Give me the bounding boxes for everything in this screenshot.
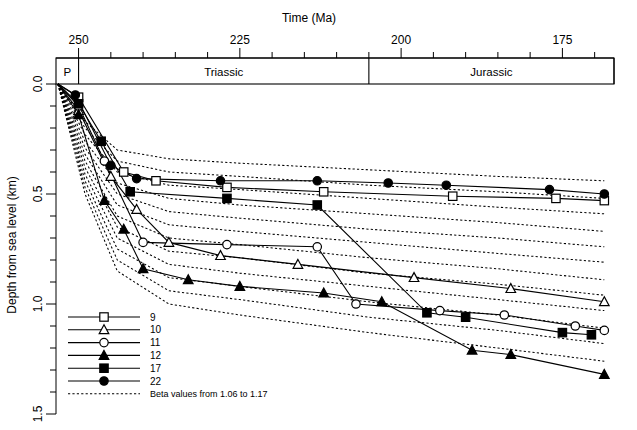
series-marker-11 bbox=[352, 300, 360, 308]
series-marker-11 bbox=[600, 326, 608, 334]
data-series-layer bbox=[58, 84, 604, 374]
x-tick-label: 200 bbox=[391, 33, 411, 47]
series-marker-17 bbox=[558, 328, 566, 336]
series-line-12 bbox=[58, 84, 604, 374]
series-marker-17 bbox=[97, 137, 105, 145]
legend-label-17: 17 bbox=[150, 363, 162, 374]
x-tick-label: 225 bbox=[230, 33, 250, 47]
series-marker-22 bbox=[132, 174, 140, 182]
beta-curves-layer bbox=[58, 84, 604, 361]
legend-label-9: 9 bbox=[150, 312, 156, 323]
series-marker-22 bbox=[216, 177, 224, 185]
series-marker-22 bbox=[545, 185, 553, 193]
legend-label-22: 22 bbox=[150, 376, 162, 387]
x-tick-label: 175 bbox=[552, 33, 572, 47]
beta-curve-1-06 bbox=[58, 84, 604, 181]
series-marker-9 bbox=[320, 188, 328, 196]
legend-marker-9 bbox=[100, 313, 108, 321]
series-marker-11 bbox=[223, 240, 231, 248]
series-marker-22 bbox=[384, 179, 392, 187]
series-marker-12 bbox=[467, 345, 477, 354]
series-marker-22 bbox=[442, 181, 450, 189]
y-axis-tick-labels: 0.00.51.01.5 bbox=[31, 75, 45, 422]
legend-label-10: 10 bbox=[150, 324, 162, 335]
series-marker-17 bbox=[461, 313, 469, 321]
y-axis-ticks bbox=[46, 84, 56, 414]
series-marker-11 bbox=[500, 311, 508, 319]
beta-curve-1-17 bbox=[58, 84, 604, 361]
series-marker-12 bbox=[100, 196, 110, 205]
period-bar-frame bbox=[56, 58, 614, 84]
y-tick-label: 0.0 bbox=[31, 75, 45, 92]
beta-curve-1-15 bbox=[58, 84, 604, 328]
y-tick-label: 1.5 bbox=[31, 405, 45, 422]
series-marker-17 bbox=[74, 100, 82, 108]
series-marker-17 bbox=[587, 331, 595, 339]
series-marker-17 bbox=[223, 194, 231, 202]
series-marker-9 bbox=[120, 168, 128, 176]
series-marker-22 bbox=[107, 161, 115, 169]
series-marker-12 bbox=[138, 264, 148, 273]
series-marker-10 bbox=[106, 171, 116, 180]
period-label-jurassic: Jurassic bbox=[470, 66, 512, 78]
series-marker-22 bbox=[313, 177, 321, 185]
period-label-triassic: Triassic bbox=[204, 66, 243, 78]
legend-label-beta: Beta values from 1.06 to 1.17 bbox=[150, 389, 268, 399]
x-axis-tick-labels: 250225200175 bbox=[69, 33, 573, 47]
series-marker-11 bbox=[313, 243, 321, 251]
series-marker-17 bbox=[423, 309, 431, 317]
series-marker-9 bbox=[449, 192, 457, 200]
legend-label-12: 12 bbox=[150, 350, 162, 361]
x-axis-title: Time (Ma) bbox=[282, 11, 336, 25]
chart-page: Time (Ma) Depth from sea level (km) 2502… bbox=[0, 0, 637, 430]
series-marker-17 bbox=[126, 188, 134, 196]
series-marker-11 bbox=[571, 322, 579, 330]
beta-curve-1-08 bbox=[58, 84, 604, 214]
legend-marker-11 bbox=[100, 338, 108, 346]
series-marker-9 bbox=[223, 183, 231, 191]
x-axis-ticks bbox=[79, 48, 595, 58]
legend-label-11: 11 bbox=[150, 337, 161, 348]
period-label-p: P bbox=[63, 66, 71, 78]
series-marker-11 bbox=[436, 306, 444, 314]
series-marker-22 bbox=[71, 91, 79, 99]
x-tick-label: 250 bbox=[69, 33, 89, 47]
geologic-period-bar: PTriassicJurassic bbox=[56, 58, 614, 84]
y-tick-label: 1.0 bbox=[31, 295, 45, 312]
y-axis-title: Depth from sea level (km) bbox=[5, 176, 19, 313]
series-marker-22 bbox=[600, 190, 608, 198]
subsidence-chart: Time (Ma) Depth from sea level (km) 2502… bbox=[0, 0, 637, 430]
chart-legend: 91011121722Beta values from 1.06 to 1.17 bbox=[68, 312, 268, 400]
legend-marker-22 bbox=[100, 377, 108, 385]
series-marker-11 bbox=[139, 238, 147, 246]
series-marker-17 bbox=[313, 201, 321, 209]
series-line-11 bbox=[58, 84, 604, 330]
y-tick-label: 0.5 bbox=[31, 185, 45, 202]
series-marker-9 bbox=[152, 177, 160, 185]
series-marker-9 bbox=[552, 194, 560, 202]
legend-marker-17 bbox=[100, 364, 108, 372]
legend-marker-12 bbox=[99, 350, 109, 359]
